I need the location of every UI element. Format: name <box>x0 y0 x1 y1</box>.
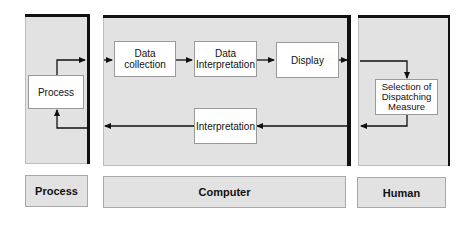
computer-label: Computer <box>103 176 346 208</box>
display-node: Display <box>276 42 339 78</box>
human-label-text: Human <box>383 187 420 199</box>
selection-line3: Measure <box>382 102 432 112</box>
data-interpretation-line2: Interpretation <box>196 59 255 70</box>
data-interpretation-node: Data Interpretation <box>194 41 257 77</box>
interpretation-node: Interpretation <box>194 108 257 144</box>
data-collection-line2: collection <box>124 59 166 70</box>
process-label: Process <box>25 175 88 207</box>
data-collection-line1: Data <box>124 48 166 59</box>
process-node-label: Process <box>38 87 74 98</box>
computer-label-text: Computer <box>199 186 251 198</box>
process-node: Process <box>28 75 84 109</box>
human-label: Human <box>357 177 446 208</box>
data-collection-node: Data collection <box>114 41 176 77</box>
data-interpretation-line1: Data <box>196 48 255 59</box>
process-label-text: Process <box>35 185 78 197</box>
display-node-label: Display <box>291 55 324 66</box>
selection-of-dispatching-measure-node: Selection of Dispatching Measure <box>375 79 438 115</box>
interpretation-node-label: Interpretation <box>196 121 255 132</box>
